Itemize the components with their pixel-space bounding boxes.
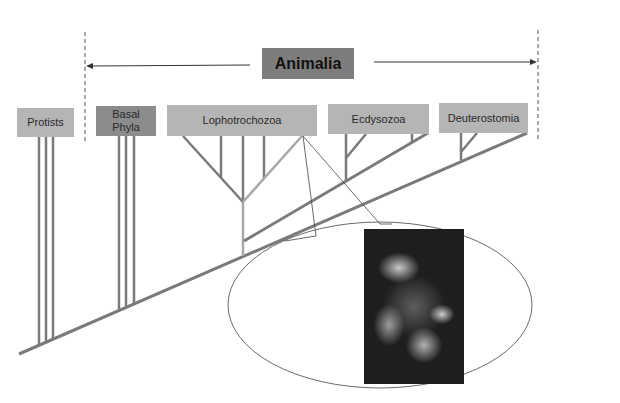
ecdysozoa-box: Ecdysozoa: [328, 104, 429, 134]
basal-phyla-label-line2: Phyla: [112, 121, 140, 134]
left-arrowhead-icon: [86, 63, 93, 69]
animalia-title-box: Animalia: [262, 48, 354, 79]
protists-branches: [39, 137, 53, 345]
deuterostomia-label: Deuterostomia: [448, 112, 520, 125]
deuterostomia-box: Deuterostomia: [439, 103, 528, 133]
feather-duster-worm-photo: [364, 229, 464, 384]
left-arrow: [90, 65, 250, 66]
protists-label: Protists: [27, 116, 64, 129]
protists-box: Protists: [17, 108, 74, 137]
ecdysozoa-label: Ecdysozoa: [352, 113, 406, 126]
basal-phyla-label-line1: Basal: [112, 108, 140, 121]
lophotrochozoa-box: Lophotrochozoa: [167, 105, 317, 136]
animalia-title: Animalia: [275, 55, 342, 73]
basal-phyla-box: Basal Phyla: [96, 106, 156, 136]
basal-phyla-branches: [119, 136, 134, 309]
lophotrochozoa-label: Lophotrochozoa: [203, 114, 282, 127]
right-arrowhead-icon: [530, 59, 537, 65]
